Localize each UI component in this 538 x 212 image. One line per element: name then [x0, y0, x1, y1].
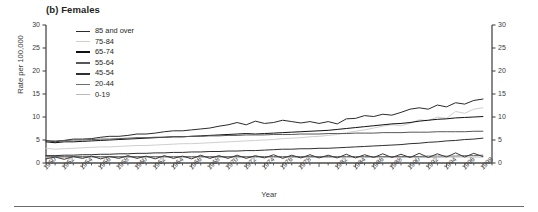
- x-axis-title: Year: [0, 190, 538, 199]
- y-axis-tick-label-left: 15: [32, 90, 40, 97]
- legend-color-swatch: [76, 84, 90, 85]
- legend-color-swatch: [76, 94, 90, 95]
- y-axis-tick-label-left: 5: [36, 136, 40, 143]
- y-axis-tick-label-right: 20: [498, 67, 506, 74]
- legend-item: 65-74: [76, 47, 134, 58]
- legend-item-label: 20-44: [95, 79, 114, 90]
- chart-figure: (b) Females Rate per 100,000 00551010151…: [0, 0, 538, 212]
- legend-item-label: 75-84: [95, 37, 114, 48]
- legend-color-swatch: [76, 41, 90, 42]
- legend-item-label: 0-19: [95, 90, 110, 101]
- y-axis-tick-label-right: 5: [498, 136, 502, 143]
- legend-item: 0-19: [76, 90, 134, 101]
- y-axis-tick-label-right: 30: [498, 21, 506, 28]
- y-axis-tick-label-right: 10: [498, 113, 506, 120]
- legend-item-label: 45-54: [95, 68, 114, 79]
- y-axis-tick-label-left: 30: [32, 21, 40, 28]
- y-axis-tick-label-left: 10: [32, 113, 40, 120]
- legend-item-label: 65-74: [95, 47, 114, 58]
- legend-item: 45-54: [76, 68, 134, 79]
- legend-item: 85 and over: [76, 26, 134, 37]
- footer-divider: [14, 206, 524, 207]
- legend-color-swatch: [76, 31, 90, 32]
- legend-item-label: 55-64: [95, 58, 114, 69]
- y-axis-tick-label-right: 0: [498, 159, 502, 166]
- y-axis-tick-label-left: 20: [32, 67, 40, 74]
- y-axis-tick-label-left: 0: [36, 159, 40, 166]
- legend-item: 20-44: [76, 79, 134, 90]
- data-series-line: [46, 155, 483, 156]
- y-axis-tick-label-right: 15: [498, 90, 506, 97]
- legend-color-swatch: [76, 51, 90, 53]
- y-axis-tick-label-left: 25: [32, 44, 40, 51]
- y-axis-tick-label-right: 25: [498, 44, 506, 51]
- legend-item: 75-84: [76, 37, 134, 48]
- legend-color-swatch: [76, 62, 90, 64]
- legend-item: 55-64: [76, 58, 134, 69]
- legend-item-label: 85 and over: [95, 26, 134, 37]
- chart-legend: 85 and over75-8465-7455-6445-5420-440-19: [76, 26, 134, 100]
- legend-color-swatch: [76, 73, 90, 75]
